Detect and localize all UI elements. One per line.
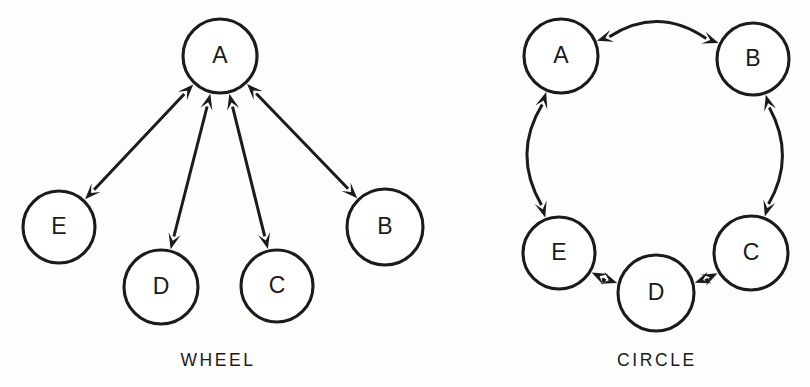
node-c[interactable]: C xyxy=(714,216,788,290)
node-label-e: E xyxy=(51,213,66,239)
topology-figure: AEDCB WHEEL ABCDE CIRCLE xyxy=(0,0,810,387)
circle-caption: CIRCLE xyxy=(617,350,697,370)
node-e[interactable]: E xyxy=(23,191,95,263)
node-label-e: E xyxy=(551,239,566,265)
node-e[interactable]: E xyxy=(523,217,595,289)
node-label-c: C xyxy=(743,239,760,265)
node-label-a: A xyxy=(212,42,228,68)
wheel-caption: WHEEL xyxy=(180,350,255,370)
node-label-d: D xyxy=(648,279,665,305)
edge-c-d xyxy=(706,278,708,281)
node-label-b: B xyxy=(377,213,392,239)
node-label-a: A xyxy=(553,42,569,68)
node-a[interactable]: A xyxy=(183,19,257,93)
node-a[interactable]: A xyxy=(524,19,598,93)
node-label-d: D xyxy=(153,273,170,299)
node-d[interactable]: D xyxy=(124,250,198,324)
diagram-canvas: AEDCB WHEEL ABCDE CIRCLE xyxy=(0,0,810,387)
node-d[interactable]: D xyxy=(618,255,694,331)
node-c[interactable]: C xyxy=(241,250,313,322)
node-label-b: B xyxy=(745,45,760,71)
edge-d-e xyxy=(603,278,605,281)
node-label-c: C xyxy=(269,272,286,298)
node-b[interactable]: B xyxy=(347,189,423,265)
node-b[interactable]: B xyxy=(717,23,789,95)
